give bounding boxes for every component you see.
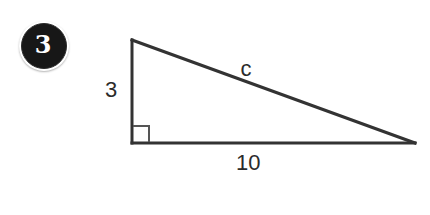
geometry-figure: 3 3 c 10 bbox=[0, 0, 430, 215]
vertical-leg-label: 3 bbox=[105, 77, 117, 102]
base-label: 10 bbox=[236, 150, 260, 175]
triangle-hypotenuse bbox=[132, 40, 415, 143]
hypotenuse-label: c bbox=[241, 56, 252, 81]
right-angle-marker bbox=[133, 126, 149, 142]
right-triangle-drawing: 3 c 10 bbox=[0, 0, 430, 215]
